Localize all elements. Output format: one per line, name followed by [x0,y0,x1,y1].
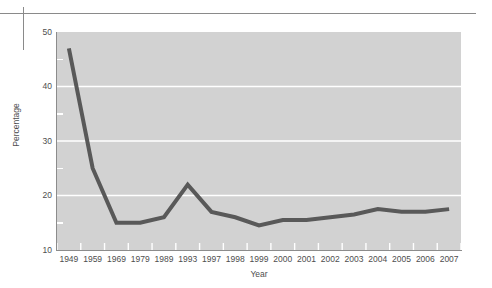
x-axis-tick-label: 2002 [321,254,340,264]
x-axis-line [56,250,462,251]
x-axis-tick-label: 2003 [345,254,364,264]
y-minor-tick-mark [57,113,63,114]
x-axis-tick-label: 1997 [202,254,221,264]
plot-svg [57,32,461,250]
x-axis-title: Year [57,269,461,279]
x-axis-tick-label: 1999 [250,254,269,264]
y-axis-tick-label: 50 [6,28,52,37]
x-axis-tick-labels: 1949195919691979198919931997199819992000… [57,254,461,268]
x-axis-tick-label: 1949 [59,254,78,264]
x-axis-tick-label: 1969 [107,254,126,264]
data-series-line [69,48,449,225]
x-axis-tick-label: 2005 [392,254,411,264]
line-chart: 1020304050 Percentage 194919591969197919… [0,20,492,288]
x-axis-tick-label: 1998 [226,254,245,264]
x-axis-tick-label: 1989 [154,254,173,264]
y-minor-tick-mark [57,59,63,60]
x-axis-tick-label: 2001 [297,254,316,264]
x-axis-tick-label: 2004 [368,254,387,264]
x-axis-tick-label: 1959 [83,254,102,264]
top-horizontal-rule [0,13,476,14]
y-axis-line [56,32,57,251]
x-axis-tick-label: 2007 [440,254,459,264]
y-minor-tick-mark [57,222,63,223]
x-axis-tick-label: 1993 [178,254,197,264]
plot-area [57,32,461,250]
y-axis-tick-label: 20 [6,191,52,200]
y-minor-tick-mark [57,168,63,169]
y-axis-tick-labels: 1020304050 [0,20,52,270]
x-tick-marks [57,243,461,250]
x-axis-tick-label: 1979 [131,254,150,264]
x-axis-tick-label: 2006 [416,254,435,264]
gridlines [57,87,461,196]
y-axis-tick-label: 10 [6,246,52,255]
y-axis-title: Percentage [11,85,21,165]
x-axis-tick-label: 2000 [273,254,292,264]
